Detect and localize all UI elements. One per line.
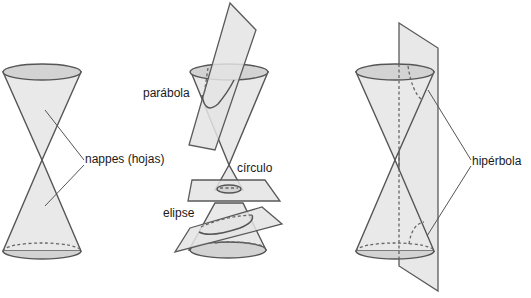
hyperbola-figure: hipérbola — [356, 23, 522, 291]
parabola-label: parábola — [143, 86, 190, 100]
double-cone-figure: nappes (hojas) — [3, 64, 164, 259]
nappes-label: nappes (hojas) — [85, 152, 164, 166]
ellipse-label: elipse — [163, 206, 195, 220]
hyperbola-upper-rim — [356, 64, 434, 80]
diagram-canvas: nappes (hojas) parábola círculo elipse — [0, 0, 531, 298]
lower-nappe — [3, 160, 81, 251]
upper-nappe-rim — [3, 64, 81, 80]
hyperbola-label: hipérbola — [472, 154, 522, 168]
circle-label: círculo — [237, 161, 273, 175]
lower-nappe-rim-front — [3, 251, 81, 259]
circle-section — [217, 185, 241, 193]
sections-figure: parábola círculo elipse — [143, 3, 282, 258]
conic-sections-diagram: nappes (hojas) parábola círculo elipse — [0, 0, 531, 298]
upper-nappe — [3, 72, 81, 160]
